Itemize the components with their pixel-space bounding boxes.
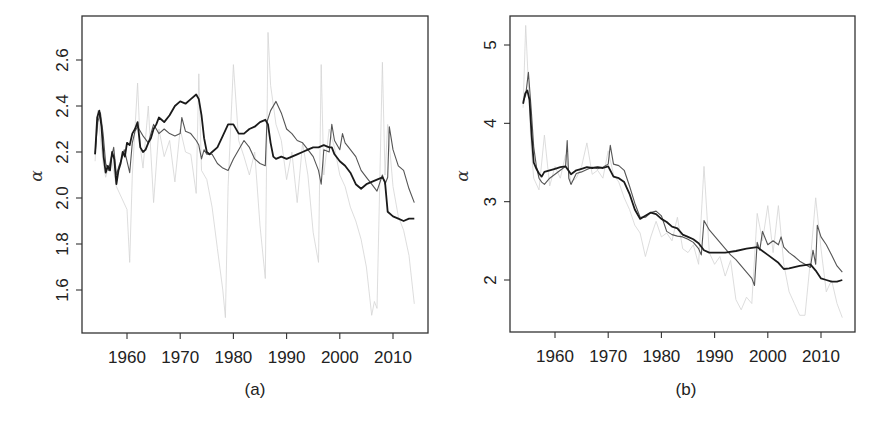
y-tick-label: 1.6 <box>53 278 72 302</box>
series-line-light <box>523 25 842 317</box>
x-tick-label: 1980 <box>214 348 252 367</box>
y-tick-label: 4 <box>481 119 500 128</box>
plot-area-a <box>95 32 414 317</box>
x-tick-label: 1990 <box>696 347 734 366</box>
x-axis-b: 196019701980199020002010 <box>536 332 840 366</box>
y-tick-label: 2.4 <box>53 94 72 118</box>
panel-b: 196019701980199020002010 2345 α (b) <box>452 16 855 399</box>
y-axis-b: 2345 <box>481 40 510 284</box>
y-tick-label: 5 <box>481 40 500 49</box>
x-tick-label: 2000 <box>749 347 787 366</box>
y-tick-label: 3 <box>481 197 500 206</box>
x-tick-label: 1970 <box>589 347 627 366</box>
panel-label-a: (a) <box>245 380 266 399</box>
x-tick-label: 2010 <box>802 347 840 366</box>
plot-frame-a <box>82 16 428 333</box>
x-tick-label: 1980 <box>642 347 680 366</box>
y-axis-a: 1.61.82.02.22.42.6 <box>53 48 82 302</box>
x-tick-label: 1960 <box>108 348 146 367</box>
series-line-light <box>95 32 414 317</box>
y-axis-label-b: α <box>452 170 472 182</box>
plot-frame-b <box>510 16 855 332</box>
figure: 196019701980199020002010 1.61.82.02.22.4… <box>0 0 881 425</box>
y-tick-label: 2 <box>481 275 500 284</box>
x-axis-a: 196019701980199020002010 <box>108 333 412 367</box>
y-axis-label-a: α <box>26 170 46 182</box>
x-tick-label: 2000 <box>321 348 359 367</box>
x-tick-label: 1990 <box>268 348 306 367</box>
plot-area-b <box>523 25 842 317</box>
x-tick-label: 2010 <box>374 348 412 367</box>
panel-label-b: (b) <box>676 380 697 399</box>
x-tick-label: 1970 <box>161 348 199 367</box>
series-line-medium <box>523 72 842 285</box>
panel-a: 196019701980199020002010 1.61.82.02.22.4… <box>26 16 428 399</box>
y-tick-label: 2.0 <box>53 186 72 210</box>
y-tick-label: 2.2 <box>53 140 72 164</box>
y-tick-label: 2.6 <box>53 48 72 72</box>
y-tick-label: 1.8 <box>53 232 72 256</box>
x-tick-label: 1960 <box>536 347 574 366</box>
series-line-dark <box>523 90 842 281</box>
